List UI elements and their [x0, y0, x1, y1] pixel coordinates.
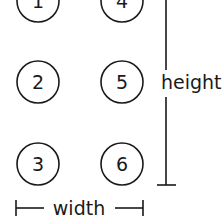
height-dimension: height	[157, 0, 222, 185]
circle-2: 2	[17, 61, 59, 103]
svg-text:2: 2	[32, 71, 44, 93]
width-dimension: width	[16, 197, 143, 219]
circle-1: 1	[17, 0, 59, 22]
height-label: height	[161, 71, 222, 93]
svg-text:3: 3	[32, 153, 44, 175]
svg-text:5: 5	[116, 71, 128, 93]
svg-text:6: 6	[116, 153, 128, 175]
circle-6: 6	[101, 143, 143, 185]
circle-4: 4	[101, 0, 143, 22]
svg-text:4: 4	[116, 0, 128, 12]
circle-3: 3	[17, 143, 59, 185]
circle-5: 5	[101, 61, 143, 103]
grid-diagram: 1 2 3 4 5 6 height width	[0, 0, 222, 223]
svg-text:1: 1	[32, 0, 44, 12]
width-label: width	[53, 197, 105, 219]
